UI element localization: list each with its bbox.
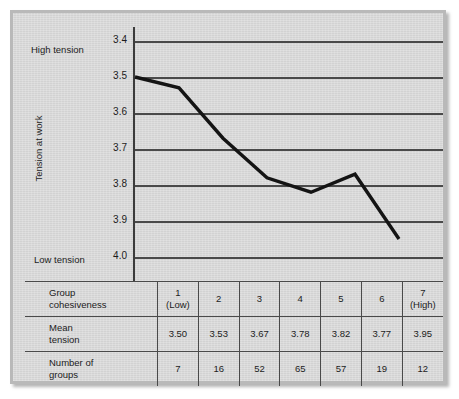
cell-sublabel: (High): [403, 299, 443, 311]
y-tick-3-5: 3.5: [89, 70, 127, 81]
data-table: Groupcohesiveness1(Low)234567(High)Meant…: [25, 281, 443, 386]
row-header-line2: groups: [49, 369, 157, 381]
table-cell: 3.95: [402, 317, 443, 352]
row-header: Meantension: [25, 317, 158, 352]
cell-value: 3.53: [199, 328, 239, 340]
cell-value: 5: [321, 293, 361, 305]
y-axis-title: Tension at work: [33, 94, 44, 204]
tension-line-series: [135, 13, 443, 281]
cell-value: 7: [403, 287, 443, 299]
table-cell: 3.53: [198, 317, 239, 352]
table-cell: 3.82: [321, 317, 362, 352]
table-cell: 19: [361, 352, 402, 387]
y-tick-3-7: 3.7: [89, 142, 127, 153]
table-row: Groupcohesiveness1(Low)234567(High): [25, 282, 443, 317]
table-cell: 2: [198, 282, 239, 317]
cell-value: 3: [240, 293, 280, 305]
table-cell: 6: [361, 282, 402, 317]
cell-value: 12: [403, 363, 443, 375]
cell-value: 16: [199, 363, 239, 375]
cell-value: 52: [240, 363, 280, 375]
y-axis-tick-labels: 3.43.53.63.73.83.94.0: [75, 13, 127, 281]
cell-value: 19: [362, 363, 402, 375]
cell-value: 6: [362, 293, 402, 305]
y-tick-3-8: 3.8: [89, 178, 127, 189]
cell-value: 3.77: [362, 328, 402, 340]
cell-value: 1: [158, 287, 198, 299]
table-cell: 1(Low): [158, 282, 199, 317]
table-cell: 16: [198, 352, 239, 387]
table-cell: 7: [158, 352, 199, 387]
table-row: Meantension3.503.533.673.783.823.773.95: [25, 317, 443, 352]
chart-figure: High tension Low tension Tension at work…: [10, 10, 446, 384]
table-cell: 12: [402, 352, 443, 387]
table-cell: 3: [239, 282, 280, 317]
table-row: Number ofgroups7165265571912: [25, 352, 443, 387]
cell-value: 3.67: [240, 328, 280, 340]
table-cell: 7(High): [402, 282, 443, 317]
table-cell: 52: [239, 352, 280, 387]
table-cell: 65: [280, 352, 321, 387]
row-header-line1: Number of: [49, 357, 157, 369]
plot-area: High tension Low tension Tension at work…: [13, 13, 449, 281]
table-cell: 5: [321, 282, 362, 317]
row-header-line2: tension: [49, 334, 157, 346]
row-header-line1: Group: [49, 287, 157, 299]
row-header-line1: Mean: [49, 322, 157, 334]
row-header-line2: cohesiveness: [49, 299, 157, 311]
cell-value: 3.95: [403, 328, 443, 340]
y-tick-3-4: 3.4: [89, 34, 127, 45]
table-cell: 4: [280, 282, 321, 317]
table-cell: 57: [321, 352, 362, 387]
cell-value: 3.78: [280, 328, 320, 340]
table-cell: 3.67: [239, 317, 280, 352]
y-tick-4-0: 4.0: [89, 250, 127, 261]
cell-value: 57: [321, 363, 361, 375]
table-cell: 3.77: [361, 317, 402, 352]
table-cell: 3.50: [158, 317, 199, 352]
cell-value: 7: [158, 363, 198, 375]
row-header: Groupcohesiveness: [25, 282, 158, 317]
table-cell: 3.78: [280, 317, 321, 352]
cell-value: 3.50: [158, 328, 198, 340]
cell-sublabel: (Low): [158, 299, 198, 311]
y-tick-3-6: 3.6: [89, 106, 127, 117]
row-header: Number ofgroups: [25, 352, 158, 387]
cell-value: 65: [280, 363, 320, 375]
cell-value: 3.82: [321, 328, 361, 340]
cell-value: 4: [280, 293, 320, 305]
cell-value: 2: [199, 293, 239, 305]
y-tick-3-9: 3.9: [89, 214, 127, 225]
